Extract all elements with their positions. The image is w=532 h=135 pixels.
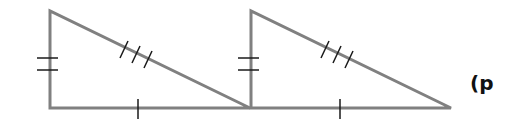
triangle-2-hypotenuse-triple-tick	[321, 41, 353, 68]
triangle-2	[238, 11, 451, 119]
triangle-1-hypotenuse-triple-tick	[120, 41, 152, 68]
congruent-triangles-diagram	[0, 0, 532, 135]
triangle-1	[37, 11, 250, 119]
triangle-1-outline	[50, 11, 250, 108]
triangle-2-outline	[251, 11, 451, 108]
triangle-2-leg-double-tick	[238, 58, 259, 70]
partial-label: (p	[470, 73, 493, 93]
triangle-1-leg-double-tick	[37, 58, 58, 70]
